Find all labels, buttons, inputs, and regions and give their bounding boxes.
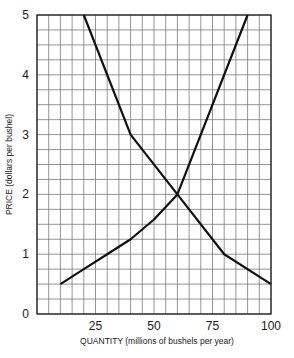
y-axis-ticks: 012345: [22, 8, 29, 321]
x-tick-label: 75: [206, 319, 220, 333]
y-tick-label: 4: [22, 68, 29, 82]
x-axis-label: QUANTITY (millions of bushels per year): [80, 336, 234, 346]
y-tick-label: 1: [22, 247, 29, 261]
x-axis-ticks: 255075100: [89, 319, 282, 333]
x-tick-label: 50: [147, 319, 161, 333]
y-tick-label: 3: [22, 128, 29, 142]
y-tick-label: 2: [22, 187, 29, 201]
x-tick-label: 25: [89, 319, 103, 333]
supply-demand-chart: 012345 255075100 QUANTITY (millions of b…: [0, 0, 294, 358]
y-tick-label: 0: [22, 307, 29, 321]
x-tick-label: 100: [261, 319, 281, 333]
y-tick-label: 5: [22, 8, 29, 22]
y-axis-label: PRICE (dollars per bushel): [4, 114, 14, 215]
